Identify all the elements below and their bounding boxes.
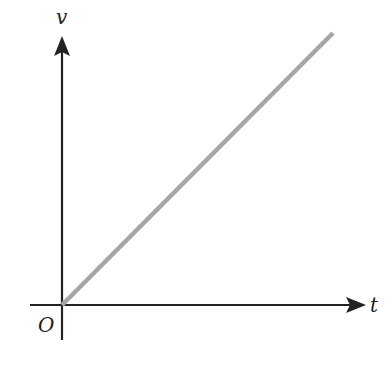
velocity-line bbox=[62, 33, 333, 305]
v-axis-label: v bbox=[56, 5, 68, 29]
t-axis-label: t bbox=[370, 293, 379, 317]
origin-label: O bbox=[38, 313, 54, 337]
vt-graph: v t O bbox=[0, 0, 391, 365]
